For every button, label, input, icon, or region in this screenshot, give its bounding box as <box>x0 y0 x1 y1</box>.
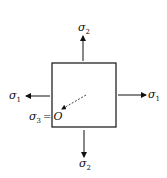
sigma2-bottom-label: σ2 <box>79 157 91 172</box>
stress-element-diagram: σ2 σ2 σ1 σ1 σ3=O <box>0 0 167 178</box>
sigma1-right-label: σ1 <box>148 88 160 103</box>
sigma3-dashed-arrow <box>62 95 86 109</box>
sigma3-label: σ3=O <box>29 110 62 125</box>
sigma1-left-label: σ1 <box>9 89 21 104</box>
sigma2-top-label: σ2 <box>78 21 90 36</box>
